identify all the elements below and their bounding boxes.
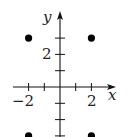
data-point [25, 132, 32, 137]
x-tick-label-neg2: −2 [12, 92, 34, 110]
y-axis [55, 11, 65, 137]
y-axis-label: y [42, 8, 52, 26]
data-point [88, 35, 95, 42]
data-point [25, 35, 32, 42]
x-axis [13, 83, 116, 91]
y-tick-label-2: 2 [42, 45, 52, 63]
coordinate-plane: y x −2 2 2 [0, 0, 130, 137]
data-point [88, 132, 95, 137]
x-tick-label-2: 2 [87, 92, 97, 110]
x-axis-label: x [108, 86, 117, 104]
